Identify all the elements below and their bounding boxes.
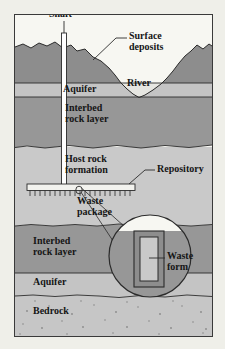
waste-form-body bbox=[140, 237, 158, 281]
figure-frame: Shaft Surface deposits Aquifer River Int… bbox=[14, 14, 213, 337]
label-interbed-lower: Interbed rock layer bbox=[33, 236, 76, 257]
label-host-rock: Host rock formation bbox=[65, 154, 108, 175]
label-shaft: Shaft bbox=[49, 14, 72, 20]
label-repository: Repository bbox=[157, 164, 204, 175]
diagram-stage: Shaft Surface deposits Aquifer River Int… bbox=[0, 0, 225, 349]
label-bedrock: Bedrock bbox=[33, 306, 69, 317]
label-aquifer-lower: Aquifer bbox=[33, 277, 66, 288]
label-aquifer-upper: Aquifer bbox=[63, 84, 96, 95]
label-interbed-upper: Interbed rock layer bbox=[65, 103, 108, 124]
label-waste-form: Waste form bbox=[167, 251, 193, 272]
label-river: River bbox=[127, 78, 151, 89]
label-waste-package: Waste package bbox=[77, 196, 112, 217]
layer-interbed-upper bbox=[15, 97, 212, 148]
cross-section-svg bbox=[15, 15, 212, 336]
layer-aquifer-upper bbox=[15, 83, 212, 97]
label-surface-deposits: Surface deposits bbox=[129, 31, 163, 52]
